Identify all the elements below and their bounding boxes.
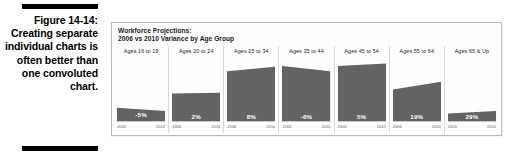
axis-tick-end: 2010	[156, 124, 165, 129]
variance-value-label: 29%	[448, 113, 496, 120]
axis-tick-end: 2010	[266, 124, 275, 129]
axis-tick-start: 2006	[448, 124, 457, 129]
variance-value-label: 5%	[338, 113, 386, 120]
chart-panel-6: Ages 55 to 6419%20062010	[390, 46, 445, 133]
variance-value-label: 19%	[393, 113, 441, 120]
panel-plot-area: 29%	[448, 57, 496, 122]
panel-plot-area: -6%	[282, 57, 330, 122]
variance-value-label: -6%	[282, 113, 330, 120]
variance-value-label: 8%	[227, 113, 275, 120]
chart-panel: Workforce Projections: 2006 vs 2010 Vari…	[111, 22, 502, 136]
chart-title-line-1: Workforce Projections:	[118, 27, 234, 35]
figure-number: Figure 14-14:	[0, 14, 98, 27]
chart-panel-5: Ages 45 to 545%20062010	[335, 46, 390, 133]
chart-title: Workforce Projections: 2006 vs 2010 Vari…	[118, 27, 234, 44]
chart-inner: Workforce Projections: 2006 vs 2010 Vari…	[112, 23, 501, 135]
panel-x-axis: 20062010	[172, 121, 220, 133]
axis-tick-start: 2006	[172, 124, 181, 129]
figure-caption-text: Creating separate individual charts is o…	[0, 27, 98, 93]
panel-x-axis: 20062010	[117, 121, 165, 133]
panel-plot-area: 8%	[227, 57, 275, 122]
variance-value-label: 2%	[172, 113, 220, 120]
panel-plot-area: 2%	[172, 57, 220, 122]
panel-header-label: Ages 20 to 24	[169, 46, 223, 57]
figure-page: Figure 14-14: Creating separate individu…	[0, 0, 508, 156]
panel-x-axis: 20062010	[448, 121, 496, 133]
figure-caption: Figure 14-14: Creating separate individu…	[0, 14, 98, 93]
chart-title-line-2: 2006 vs 2010 Variance by Age Group	[118, 35, 234, 43]
axis-tick-end: 2010	[377, 124, 386, 129]
panel-header-label: Ages 45 to 54	[335, 46, 389, 57]
axis-tick-start: 2006	[338, 124, 347, 129]
chart-panel-3: Ages 25 to 348%20062010	[224, 46, 279, 133]
panel-x-axis: 20062010	[227, 121, 275, 133]
panel-header-label: Ages 55 to 64	[390, 46, 444, 57]
panel-x-axis: 20062010	[282, 121, 330, 133]
panel-header-label: Ages 65 & Up	[445, 46, 499, 57]
chart-panel-7: Ages 65 & Up29%20062010	[445, 46, 499, 133]
chart-panel-4: Ages 35 to 44-6%20062010	[279, 46, 334, 133]
panel-plot-area: 5%	[338, 57, 386, 122]
small-multiples-grid: Ages 16 to 19-5%20062010Ages 20 to 242%2…	[114, 46, 499, 133]
axis-tick-start: 2006	[227, 124, 236, 129]
axis-tick-start: 2006	[282, 124, 291, 129]
chart-panel-2: Ages 20 to 242%20062010	[169, 46, 224, 133]
panel-plot-area: 19%	[393, 57, 441, 122]
axis-tick-end: 2010	[432, 124, 441, 129]
panel-header-label: Ages 35 to 44	[279, 46, 333, 57]
variance-value-label: -5%	[117, 111, 165, 118]
panel-header-label: Ages 25 to 34	[224, 46, 278, 57]
figure-caption-column: Figure 14-14: Creating separate individu…	[0, 0, 104, 156]
axis-tick-start: 2006	[393, 124, 402, 129]
chart-panel-1: Ages 16 to 19-5%20062010	[114, 46, 169, 133]
panel-header-label: Ages 16 to 19	[114, 46, 168, 57]
caption-rule-top	[22, 4, 98, 9]
axis-tick-end: 2010	[211, 124, 220, 129]
panel-x-axis: 20062010	[393, 121, 441, 133]
panel-x-axis: 20062010	[338, 121, 386, 133]
axis-tick-start: 2006	[117, 124, 126, 129]
axis-tick-end: 2010	[487, 124, 496, 129]
axis-tick-end: 2010	[322, 124, 331, 129]
panel-plot-area: -5%	[117, 57, 165, 122]
caption-rule-bottom	[22, 146, 98, 151]
